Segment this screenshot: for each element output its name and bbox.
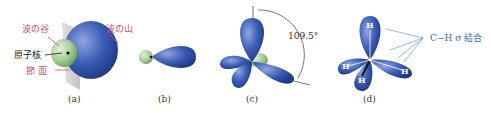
carbon-center xyxy=(369,59,372,62)
caption-a: (a) xyxy=(68,94,80,104)
nucleus-dot xyxy=(66,51,69,54)
bond-label: C−H σ 結合 xyxy=(430,32,482,43)
atom-h-left: H xyxy=(342,61,350,71)
panel-b: (b) xyxy=(139,46,196,104)
orbital-diagram: 波の谷 波の山 原子核 節 面 (a) (b) 109.5° (c) H H xyxy=(0,0,491,113)
atom-h-front: H xyxy=(358,75,366,85)
panel-d: H H H H C−H σ 結合 (d) xyxy=(338,16,482,104)
panel-a: 波の谷 波の山 原子核 節 面 (a) xyxy=(14,21,133,104)
atom-h-top: H xyxy=(366,20,374,30)
nucleus-dot xyxy=(150,56,153,59)
label-node-plane: 節 面 xyxy=(26,65,47,76)
atom-h-right: H xyxy=(401,66,409,76)
label-nucleus: 原子核 xyxy=(14,49,41,60)
label-crest: 波の山 xyxy=(106,23,133,34)
lobe-valley xyxy=(51,39,77,67)
caption-b: (b) xyxy=(158,94,171,104)
caption-d: (d) xyxy=(363,94,376,104)
lobe-right xyxy=(252,62,294,84)
bond-pointers xyxy=(386,29,423,62)
angle-label: 109.5° xyxy=(288,31,318,41)
label-valley: 波の谷 xyxy=(22,23,49,34)
panel-c: 109.5° (c) xyxy=(220,6,318,104)
lobe-large xyxy=(152,46,196,68)
caption-c: (c) xyxy=(246,94,258,104)
